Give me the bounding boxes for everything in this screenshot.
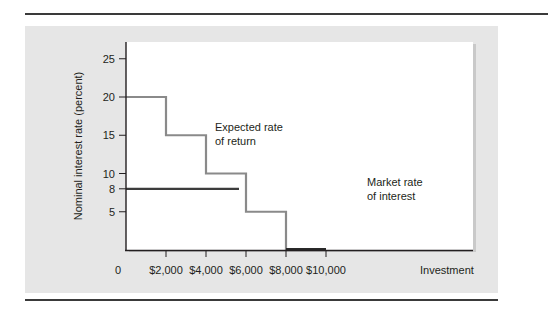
x-tick-label: $2,000 [149,264,183,276]
x-axis-label: Investment [420,264,474,276]
annotation-market-line2: of interest [367,190,415,202]
x-tick-label: $4,000 [189,264,223,276]
y-tick-label: 15 [103,129,115,141]
annotation-expected-line2: of return [215,135,256,147]
x-tick-label: $10,000 [306,264,346,276]
y-tick-label: 20 [103,91,115,103]
y-tick-label: 25 [103,53,115,65]
y-axis-ticks: 5810152025 [103,53,126,218]
y-tick-label: 10 [103,168,115,180]
y-axis-label: Nominal interest rate (percent) [72,72,84,221]
x-tick-label: 0 [115,264,121,276]
y-tick-label: 8 [109,183,115,195]
x-axis-ticks: 0$2,000$4,000$6,000$8,000$10,000 [115,250,346,276]
annotation-expected-line1: Expected rate [215,121,283,133]
x-tick-label: $8,000 [269,264,303,276]
y-tick-label: 5 [109,206,115,218]
chart-svg: 5810152025 0$2,000$4,000$6,000$8,000$10,… [0,0,548,310]
x-tick-label: $6,000 [229,264,263,276]
plot-area [126,42,473,250]
annotation-market-line1: Market rate [367,176,423,188]
